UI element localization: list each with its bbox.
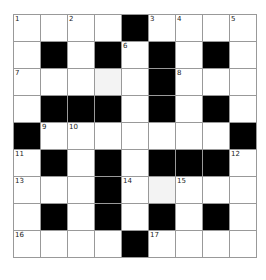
grid-cell[interactable]: 17 [149,231,176,258]
grid-cell[interactable] [41,15,68,42]
grid-cell[interactable] [176,42,203,69]
clue-number: 15 [177,177,186,185]
grid-cell[interactable]: 1 [14,15,41,42]
grid-cell[interactable] [176,96,203,123]
clue-number: 5 [231,15,235,23]
grid-cell[interactable] [41,69,68,96]
grid-cell[interactable] [176,231,203,258]
black-square [95,96,122,123]
black-square [122,15,149,42]
grid-cell[interactable]: 8 [176,69,203,96]
clue-number: 8 [177,69,181,77]
grid-cell[interactable] [149,123,176,150]
black-square [41,150,68,177]
grid-cell[interactable] [68,177,95,204]
grid-cell[interactable]: 10 [68,123,95,150]
black-square [176,150,203,177]
black-square [95,177,122,204]
grid-cell[interactable] [95,15,122,42]
clue-number: 3 [150,15,154,23]
grid-cell[interactable]: 2 [68,15,95,42]
grid-cell[interactable]: 11 [14,150,41,177]
black-square [68,96,95,123]
grid-cell[interactable]: 9 [41,123,68,150]
black-square [203,150,230,177]
grid-cell[interactable] [203,231,230,258]
grid-cell[interactable] [230,69,257,96]
black-square [95,204,122,231]
grid-cell[interactable]: 4 [176,15,203,42]
grid-cell[interactable] [41,231,68,258]
clue-number: 6 [123,42,127,50]
grid-cell[interactable] [230,231,257,258]
grid-cell[interactable] [68,204,95,231]
grid-cell[interactable]: 12 [230,150,257,177]
grid-cell[interactable] [41,177,68,204]
grid-cell[interactable] [230,204,257,231]
black-square [203,96,230,123]
black-square [149,96,176,123]
grid-cell[interactable] [176,204,203,231]
clue-number: 1 [15,15,19,23]
grid-cell[interactable] [95,69,122,96]
grid-cell[interactable] [14,42,41,69]
grid-cell[interactable] [14,204,41,231]
grid-cell[interactable]: 15 [176,177,203,204]
grid-cell[interactable]: 5 [230,15,257,42]
clue-number: 2 [69,15,73,23]
clue-number: 16 [15,231,24,239]
crossword-grid: 1234567891011121314151617 [13,14,257,258]
black-square [95,150,122,177]
grid-cell[interactable] [122,150,149,177]
grid-cell[interactable] [68,231,95,258]
clue-number: 12 [231,150,240,158]
black-square [203,42,230,69]
grid-cell[interactable] [122,123,149,150]
clue-number: 13 [15,177,24,185]
clue-number: 14 [123,177,132,185]
black-square [41,204,68,231]
black-square [41,96,68,123]
grid-cell[interactable]: 3 [149,15,176,42]
grid-cell[interactable] [149,177,176,204]
grid-cell[interactable] [230,177,257,204]
grid-cell[interactable] [203,123,230,150]
grid-cell[interactable] [122,96,149,123]
clue-number: 17 [150,231,159,239]
black-square [149,204,176,231]
grid-cell[interactable] [176,123,203,150]
grid-cell[interactable]: 6 [122,42,149,69]
clue-number: 10 [69,123,78,131]
clue-number: 7 [15,69,19,77]
clue-number: 4 [177,15,181,23]
grid-cell[interactable] [68,150,95,177]
grid-cell[interactable] [230,96,257,123]
grid-cell[interactable] [95,231,122,258]
black-square [14,123,41,150]
clue-number: 9 [42,123,46,131]
grid-cell[interactable] [68,69,95,96]
black-square [149,69,176,96]
grid-cell[interactable]: 14 [122,177,149,204]
grid-cell[interactable]: 16 [14,231,41,258]
grid-cell[interactable] [203,177,230,204]
grid-cell[interactable] [68,42,95,69]
black-square [203,204,230,231]
black-square [41,42,68,69]
grid-cell[interactable] [230,42,257,69]
grid-cell[interactable]: 7 [14,69,41,96]
black-square [149,150,176,177]
black-square [230,123,257,150]
grid-cell[interactable] [122,204,149,231]
black-square [149,42,176,69]
grid-cell[interactable] [122,69,149,96]
grid-cell[interactable] [203,15,230,42]
grid-cell[interactable] [14,96,41,123]
grid-cell[interactable] [203,69,230,96]
grid-cell[interactable]: 13 [14,177,41,204]
black-square [122,231,149,258]
clue-number: 11 [15,150,24,158]
grid-cell[interactable] [95,123,122,150]
black-square [95,42,122,69]
